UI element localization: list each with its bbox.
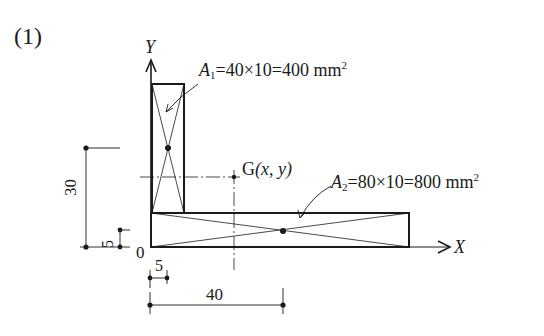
dim-5h-end-dot <box>165 276 170 281</box>
dim-5v-end-dot <box>118 245 123 250</box>
dim-40-end-dot <box>147 302 152 307</box>
area-a1-label: A1=40×10=400 mm2 <box>199 60 347 81</box>
y-axis-label: Y <box>145 38 155 56</box>
figure-label: (1) <box>14 24 42 48</box>
area-a1-expression: =40×10=400 mm <box>216 60 342 80</box>
dim-30-label: 30 <box>62 179 79 196</box>
area-a1-superscript: 2 <box>341 59 347 71</box>
x-axis-label: X <box>454 238 465 256</box>
dim-30-end-dot <box>83 145 88 150</box>
dim-5v-end-dot <box>118 228 123 233</box>
area-a2-symbol: A <box>331 172 342 192</box>
area-a2-expression: =80×10=800 mm <box>348 172 474 192</box>
area-a2-centroid-dot <box>280 228 286 234</box>
dim-5h-label: 5 <box>155 258 163 274</box>
centroid-g: G <box>242 159 255 179</box>
origin-label: 0 <box>136 244 145 261</box>
dim-40-label: 40 <box>206 286 223 303</box>
dim-5h-end-dot <box>148 276 153 281</box>
dim-30-end-dot <box>83 244 88 249</box>
area-a2-label: A2=80×10=800 mm2 <box>331 172 479 193</box>
dim-5v-label: 5 <box>100 240 116 248</box>
area-a1-symbol: A <box>199 60 210 80</box>
centroid-label: G(x, y) <box>242 160 292 178</box>
centroid-g-dot <box>232 175 236 179</box>
a1-leader-line <box>166 84 198 112</box>
area-a2-superscript: 2 <box>473 171 479 183</box>
centroid-coords: (x, y) <box>255 159 292 179</box>
dim-40-end-dot <box>280 302 285 307</box>
area-a1-centroid-dot <box>165 145 171 151</box>
